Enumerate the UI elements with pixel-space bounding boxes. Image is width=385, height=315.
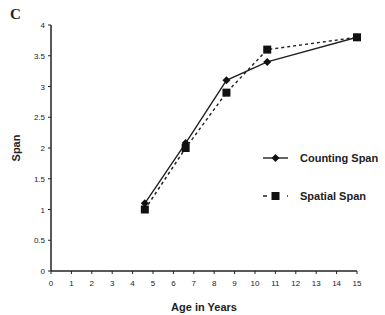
data-point-marker (222, 89, 230, 97)
y-tick-label: 4 (41, 21, 46, 30)
x-tick-label: 15 (353, 279, 362, 288)
series-line-0 (145, 37, 357, 203)
y-tick-label: 3 (41, 83, 46, 92)
line-chart: 00.511.522.533.540123456789101112131415A… (0, 0, 385, 315)
x-tick-label: 12 (291, 279, 300, 288)
x-tick-label: 0 (49, 279, 54, 288)
y-tick-label: 2 (41, 144, 46, 153)
data-point-marker (263, 58, 271, 66)
x-tick-label: 5 (151, 279, 156, 288)
y-tick-label: 2.5 (34, 113, 46, 122)
legend-label-0: Counting Span (300, 152, 378, 164)
y-tick-label: 3.5 (34, 52, 46, 61)
data-point-marker (353, 33, 361, 41)
x-tick-label: 14 (332, 279, 341, 288)
legend-label-1: Spatial Span (300, 190, 366, 202)
x-tick-label: 10 (251, 279, 260, 288)
data-point-marker (141, 206, 149, 214)
x-tick-label: 4 (130, 279, 135, 288)
y-tick-label: 1.5 (34, 175, 46, 184)
square-icon (272, 192, 280, 200)
y-tick-label: 0 (41, 267, 46, 276)
x-tick-label: 7 (192, 279, 197, 288)
y-tick-label: 1 (41, 206, 46, 215)
x-axis-label: Age in Years (171, 301, 237, 313)
series-line-1 (145, 37, 357, 209)
x-tick-label: 6 (171, 279, 176, 288)
y-axis-label: Span (10, 134, 22, 161)
x-tick-label: 3 (110, 279, 115, 288)
data-point-marker (222, 76, 230, 84)
x-tick-label: 9 (232, 279, 237, 288)
x-tick-label: 11 (271, 279, 280, 288)
y-tick-label: 0.5 (34, 236, 46, 245)
data-point-marker (182, 144, 190, 152)
x-tick-label: 2 (90, 279, 95, 288)
data-point-marker (263, 46, 271, 54)
x-tick-label: 8 (212, 279, 217, 288)
x-tick-label: 1 (69, 279, 74, 288)
x-tick-label: 13 (312, 279, 321, 288)
diamond-icon (272, 154, 280, 162)
